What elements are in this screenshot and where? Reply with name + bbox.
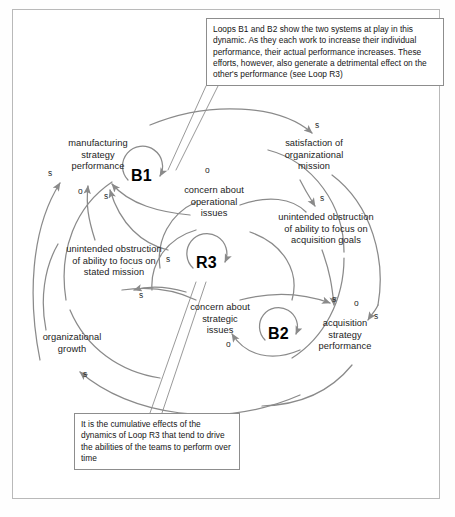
node-organizational-growth: organizational growth: [24, 332, 120, 355]
polarity-marker-growth-to-manufacturing: s: [48, 169, 52, 177]
link-manufacturing-to-satisfaction: [150, 109, 312, 133]
polarity-marker-to-concern-operational: o: [205, 166, 210, 174]
callout-loops-b1-b2: Loops B1 and B2 show the two systems at …: [206, 18, 444, 86]
node-unintended-obstruction-acquisition-goals: unintended obstruction of ability to foc…: [262, 212, 390, 247]
link-acquisition-to-concern-strategic: [232, 334, 300, 356]
loop-label-r3: R3: [196, 254, 217, 272]
node-concern-about-operational-issues: concern about operational issues: [168, 185, 260, 220]
link-lower-to-manufacturing: [110, 190, 168, 250]
polarity-marker-obstruction-to-acquisition: o: [354, 299, 359, 307]
link-obstruction-stated-to-concern-strategic: [122, 288, 196, 300]
node-unintended-obstruction-stated-mission: unintended obstruction of ability to foc…: [50, 244, 178, 279]
link-satisfaction-to-obstruction-acquisition: [300, 180, 315, 206]
polarity-marker-acquisition-to-concern-strategic: o: [226, 340, 231, 348]
leader-line-top: [168, 86, 206, 170]
node-satisfaction-of-organizational-mission: satisfaction of organizational mission: [262, 138, 366, 173]
polarity-marker-outer-to-acquisition: s: [374, 312, 378, 320]
link-obstruction-stated-to-manufacturing: [87, 186, 95, 240]
loop-label-b1: B1: [131, 167, 152, 185]
diagram-canvas: manufacturing strategy performance satis…: [0, 0, 455, 517]
polarity-marker-stated-to-manufacturing: o: [78, 187, 83, 195]
polarity-marker-to-organizational-growth: s: [83, 370, 87, 378]
polarity-marker-inner-left: s: [166, 255, 170, 263]
polarity-marker-strategic-to-acquisition: s: [332, 295, 336, 303]
leader-line-top-2: [176, 86, 218, 170]
polarity-marker-inner-to-manufacturing: s: [104, 192, 108, 200]
loop-label-b2: B2: [268, 325, 289, 343]
polarity-marker-to-obstruction-stated: s: [139, 291, 143, 299]
node-concern-about-strategic-issues: concern about strategic issues: [174, 302, 266, 337]
polarity-marker-satisfaction-to-obstruction: s: [320, 194, 324, 202]
polarity-marker-manufacturing-to-satisfaction: s: [315, 121, 319, 129]
link-outer-bottom: [262, 365, 352, 406]
link-acquisition-to-growth: [80, 372, 300, 414]
node-acquisition-strategy-performance: acquisition strategy performance: [300, 318, 390, 353]
callout-loop-r3: It is the cumulative effects of the dyna…: [74, 413, 240, 470]
